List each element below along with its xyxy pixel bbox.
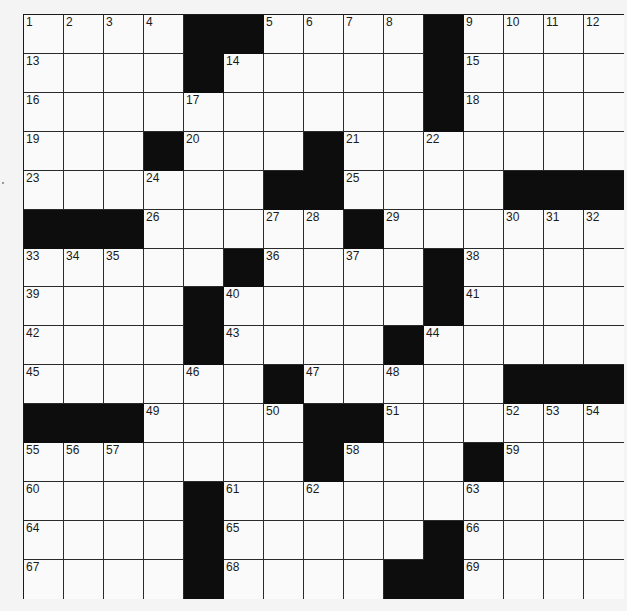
crossword-cell[interactable] [504,249,544,288]
crossword-cell[interactable] [584,482,624,521]
crossword-cell[interactable] [584,443,624,482]
crossword-cell[interactable] [584,249,624,288]
crossword-cell[interactable]: 8 [384,15,424,54]
crossword-cell[interactable]: 42 [24,326,64,365]
crossword-cell[interactable] [104,132,144,171]
crossword-cell[interactable] [264,521,304,560]
crossword-cell[interactable] [584,326,624,365]
crossword-cell[interactable]: 33 [24,249,64,288]
crossword-cell[interactable]: 10 [504,15,544,54]
crossword-cell[interactable] [144,93,184,132]
crossword-cell[interactable] [504,326,544,365]
crossword-cell[interactable]: 21 [344,132,384,171]
crossword-cell[interactable] [544,93,584,132]
crossword-cell[interactable] [184,404,224,443]
crossword-cell[interactable]: 62 [304,482,344,521]
crossword-cell[interactable] [64,521,104,560]
crossword-cell[interactable] [584,54,624,93]
crossword-cell[interactable]: 5 [264,15,304,54]
crossword-cell[interactable] [384,443,424,482]
crossword-cell[interactable] [304,249,344,288]
crossword-cell[interactable] [104,326,144,365]
crossword-cell[interactable] [544,249,584,288]
crossword-cell[interactable] [224,132,264,171]
crossword-cell[interactable]: 36 [264,249,304,288]
crossword-cell[interactable] [64,560,104,599]
crossword-cell[interactable] [384,93,424,132]
crossword-cell[interactable] [544,326,584,365]
crossword-cell[interactable]: 68 [224,560,264,599]
crossword-cell[interactable]: 52 [504,404,544,443]
crossword-cell[interactable] [464,326,504,365]
crossword-cell[interactable] [104,93,144,132]
crossword-cell[interactable] [504,287,544,326]
crossword-cell[interactable] [104,482,144,521]
crossword-cell[interactable]: 28 [304,210,344,249]
crossword-cell[interactable]: 54 [584,404,624,443]
crossword-cell[interactable]: 39 [24,287,64,326]
crossword-cell[interactable]: 44 [424,326,464,365]
crossword-cell[interactable] [424,171,464,210]
crossword-cell[interactable] [304,560,344,599]
crossword-cell[interactable] [464,404,504,443]
crossword-cell[interactable] [144,521,184,560]
crossword-cell[interactable] [264,560,304,599]
crossword-cell[interactable]: 56 [64,443,104,482]
crossword-cell[interactable] [544,132,584,171]
crossword-cell[interactable]: 13 [24,54,64,93]
crossword-cell[interactable]: 29 [384,210,424,249]
crossword-cell[interactable] [64,287,104,326]
crossword-cell[interactable]: 43 [224,326,264,365]
crossword-cell[interactable]: 24 [144,171,184,210]
crossword-cell[interactable]: 34 [64,249,104,288]
crossword-cell[interactable] [64,93,104,132]
crossword-cell[interactable]: 49 [144,404,184,443]
crossword-cell[interactable]: 51 [384,404,424,443]
crossword-cell[interactable]: 69 [464,560,504,599]
crossword-cell[interactable] [384,521,424,560]
crossword-cell[interactable]: 30 [504,210,544,249]
crossword-cell[interactable] [584,132,624,171]
crossword-cell[interactable]: 23 [24,171,64,210]
crossword-cell[interactable]: 31 [544,210,584,249]
crossword-cell[interactable] [504,54,544,93]
crossword-cell[interactable] [264,132,304,171]
crossword-cell[interactable] [264,54,304,93]
crossword-cell[interactable] [344,482,384,521]
crossword-cell[interactable] [344,93,384,132]
crossword-cell[interactable] [184,171,224,210]
crossword-cell[interactable]: 4 [144,15,184,54]
crossword-cell[interactable]: 12 [584,15,624,54]
crossword-cell[interactable] [344,287,384,326]
crossword-cell[interactable] [504,560,544,599]
crossword-cell[interactable]: 26 [144,210,184,249]
crossword-cell[interactable] [144,326,184,365]
crossword-cell[interactable] [544,521,584,560]
crossword-cell[interactable] [304,93,344,132]
crossword-cell[interactable] [424,443,464,482]
crossword-cell[interactable] [504,521,544,560]
crossword-cell[interactable] [464,132,504,171]
crossword-cell[interactable] [544,443,584,482]
crossword-cell[interactable] [344,365,384,404]
crossword-cell[interactable] [384,132,424,171]
crossword-cell[interactable] [424,482,464,521]
crossword-cell[interactable] [64,171,104,210]
crossword-cell[interactable] [144,249,184,288]
crossword-cell[interactable]: 61 [224,482,264,521]
crossword-cell[interactable]: 47 [304,365,344,404]
crossword-cell[interactable] [344,326,384,365]
crossword-cell[interactable] [384,482,424,521]
crossword-cell[interactable]: 50 [264,404,304,443]
crossword-cell[interactable] [464,171,504,210]
crossword-cell[interactable] [384,287,424,326]
crossword-cell[interactable]: 1 [24,15,64,54]
crossword-cell[interactable]: 41 [464,287,504,326]
crossword-cell[interactable] [304,54,344,93]
crossword-cell[interactable]: 40 [224,287,264,326]
crossword-cell[interactable]: 20 [184,132,224,171]
crossword-cell[interactable] [504,482,544,521]
crossword-cell[interactable] [344,560,384,599]
crossword-cell[interactable]: 63 [464,482,504,521]
crossword-cell[interactable] [144,287,184,326]
